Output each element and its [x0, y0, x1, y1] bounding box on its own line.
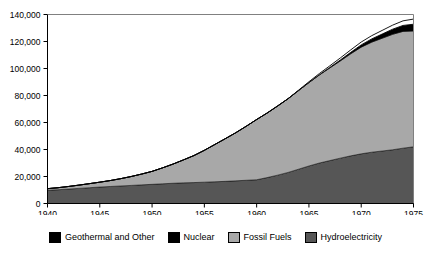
- x-tick-label: 1955: [195, 209, 214, 216]
- x-tick-label: 1975: [404, 209, 423, 216]
- legend-item[interactable]: Geothermal and Other: [49, 232, 155, 243]
- x-tick-label: 1970: [352, 209, 371, 216]
- chart-container: 020,00040,00060,00080,000100,000120,0001…: [0, 0, 431, 256]
- x-tick-label: 1960: [247, 209, 266, 216]
- legend-label: Geothermal and Other: [65, 232, 155, 243]
- legend-label: Fossil Fuels: [244, 232, 292, 243]
- chart-legend: Geothermal and OtherNuclearFossil FuelsH…: [0, 224, 431, 250]
- y-tick-label: 20,000: [15, 172, 41, 182]
- legend-item[interactable]: Hydroelectricity: [305, 232, 383, 243]
- series-areas: [48, 19, 414, 203]
- y-tick-label: 120,000: [10, 37, 41, 47]
- x-tick-label: 1945: [90, 209, 109, 216]
- x-tick-label: 1950: [143, 209, 162, 216]
- legend-label: Nuclear: [184, 232, 215, 243]
- plot-area: 020,00040,00060,00080,000100,000120,0001…: [0, 0, 431, 215]
- y-tick-label: 60,000: [15, 118, 41, 128]
- y-tick-label: 40,000: [15, 145, 41, 155]
- legend-swatch-icon: [228, 232, 240, 243]
- legend-swatch-icon: [49, 232, 61, 243]
- legend-item[interactable]: Fossil Fuels: [228, 232, 292, 243]
- stacked-area-chart: 020,00040,00060,00080,000100,000120,0001…: [0, 0, 431, 215]
- legend-swatch-icon: [168, 232, 180, 243]
- y-tick-label: 100,000: [10, 64, 41, 74]
- x-axis-tick-labels: 19401945195019551960196519701975: [38, 209, 423, 216]
- y-tick-label: 80,000: [15, 91, 41, 101]
- y-axis-tick-labels: 020,00040,00060,00080,000100,000120,0001…: [10, 10, 41, 209]
- x-tick-label: 1965: [299, 209, 318, 216]
- legend-item[interactable]: Nuclear: [168, 232, 215, 243]
- legend-label: Hydroelectricity: [321, 232, 383, 243]
- y-tick-label: 140,000: [10, 10, 41, 20]
- y-tick-label: 0: [36, 199, 41, 209]
- x-tick-label: 1940: [38, 209, 57, 216]
- legend-swatch-icon: [305, 232, 317, 243]
